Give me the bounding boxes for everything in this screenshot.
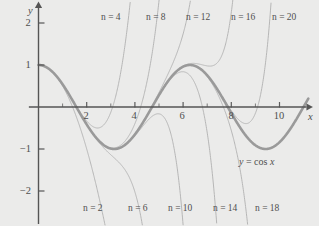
- taylor-curve-n-2: [39, 65, 106, 225]
- series-label-n-16: n = 16: [231, 13, 255, 23]
- x-axis-arrow: [306, 103, 313, 110]
- cos-label-eq: =: [243, 156, 254, 167]
- y-tick-label-2: 2: [22, 18, 34, 29]
- x-tick-label-2: 2: [80, 111, 92, 122]
- series-label-n-20: n = 20: [272, 13, 296, 23]
- x-tick-label-8: 8: [225, 111, 237, 122]
- curves-layer: [39, 0, 309, 225]
- x-tick-label-6: 6: [176, 111, 188, 122]
- taylor-curve-n-20: [39, 3, 272, 149]
- series-label-n-2: n = 2: [83, 204, 103, 214]
- series-label-n-6: n = 6: [128, 204, 148, 214]
- series-label-n-14: n = 14: [213, 204, 237, 214]
- series-label-n-18: n = 18: [255, 204, 279, 214]
- cos-curve-label: y = cos x: [239, 157, 274, 167]
- taylor-polynomial-figure: 2 1 −1 −2 2 4 6 8 10 y x n = 4 n = 8 n =…: [0, 0, 319, 226]
- taylor-curve-n-12: [39, 1, 191, 149]
- y-axis-arrow: [35, 2, 42, 9]
- x-tick-label-10: 10: [270, 111, 288, 122]
- series-label-n-4: n = 4: [101, 13, 121, 23]
- y-tick-label-minus-2: −2: [17, 186, 34, 197]
- cos-label-rhs: cos x: [254, 156, 274, 167]
- series-label-n-10: n = 10: [168, 204, 192, 214]
- y-tick-label-1: 1: [22, 60, 34, 71]
- y-tick-label-minus-1: −1: [17, 144, 34, 155]
- x-axis-name: x: [308, 112, 313, 123]
- series-label-n-8: n = 8: [146, 13, 166, 23]
- x-tick-label-4: 4: [128, 111, 140, 122]
- y-axis-name: y: [28, 6, 33, 17]
- series-label-n-12: n = 12: [186, 13, 210, 23]
